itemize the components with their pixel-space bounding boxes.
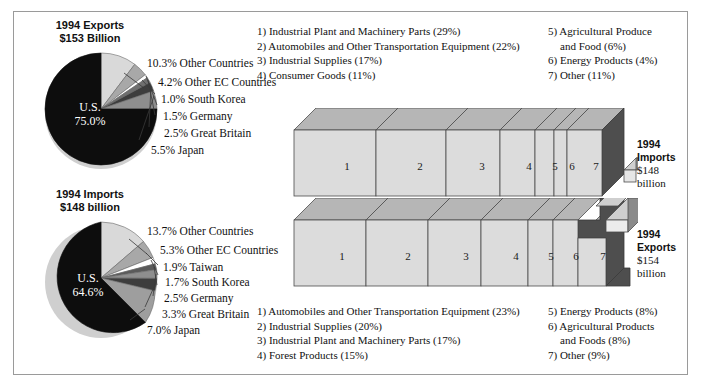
legend-item: 1) Industrial Plant and Machinery Parts …	[257, 24, 520, 39]
callout-imports-germany: 2.5% Germany	[164, 292, 234, 304]
pie-exports-title-line1: 1994 Exports	[25, 19, 155, 32]
legend-item: 2) Industrial Supplies (20%)	[257, 319, 520, 334]
bar-imports-label-line3: $148 billion	[637, 164, 687, 190]
bar-imports-label-line2: Imports	[637, 151, 687, 164]
callout-imports-south-korea: 1.7% South Korea	[165, 276, 250, 288]
callout-imports-other-countries: 13.7% Other Countries	[147, 225, 253, 237]
callout-imports-japan: 7.0% Japan	[147, 324, 200, 336]
legend-item: 6) Energy Products (4%)	[548, 53, 657, 68]
bar-exports-label-line2: Exports	[637, 241, 687, 254]
callout-imports-great-britain: 3.3% Great Britain	[162, 308, 249, 320]
callout-exports-great-britain: 2.5% Great Britain	[164, 127, 251, 139]
pie-imports-title-line1: 1994 Imports	[25, 188, 155, 201]
bar-exports-label-line1: 1994	[637, 228, 687, 241]
legend-item: 3) Industrial Supplies (17%)	[257, 53, 520, 68]
pie-exports-title: 1994 Exports $153 Billion	[25, 19, 155, 45]
callout-imports-other-ec: 5.3% Other EC Countries	[160, 244, 278, 256]
legend-item: 7) Other (11%)	[548, 68, 657, 83]
legend-item: 4) Forest Products (15%)	[257, 348, 520, 363]
pie-imports-title-line2: $148 billion	[25, 201, 155, 214]
legend-item: and Foods (8%)	[548, 333, 657, 348]
legend-item: 5) Energy Products (8%)	[548, 304, 657, 319]
legend-imports-products-right: 5) Agricultural Produce and Food (6%) 6)…	[548, 24, 657, 82]
callout-exports-germany: 1.5% Germany	[163, 110, 233, 122]
legend-imports-products: 1) Industrial Plant and Machinery Parts …	[257, 24, 520, 82]
legend-exports-products: 1) Automobiles and Other Transportation …	[257, 304, 520, 362]
legend-item: 2) Automobiles and Other Transportation …	[257, 39, 520, 54]
bar-imports-label-line1: 1994	[637, 138, 687, 151]
legend-item: 5) Agricultural Produce	[548, 24, 657, 39]
callout-exports-other-countries: 10.3% Other Countries	[147, 57, 253, 69]
callout-exports-south-korea: 1.0% South Korea	[161, 93, 246, 105]
legend-item: 7) Other (9%)	[548, 348, 657, 363]
bar-chart-exports-3d	[278, 198, 638, 298]
legend-item: 1) Automobiles and Other Transportation …	[257, 304, 520, 319]
pie-exports-title-line2: $153 Billion	[25, 32, 155, 45]
legend-item: 3) Industrial Plant and Machinery Parts …	[257, 333, 520, 348]
legend-imports-left-column: 1) Industrial Plant and Machinery Parts …	[257, 24, 520, 82]
legend-item: 6) Agricultural Products	[548, 319, 657, 334]
bar-imports-label: 1994 Imports $148 billion	[637, 138, 687, 190]
callout-exports-japan: 5.5% Japan	[151, 144, 204, 156]
bar-chart-imports-3d	[278, 108, 638, 203]
bar-exports-label-line3: $154 billion	[637, 254, 687, 280]
figure-frame: 1994 Exports $153 Billion	[13, 11, 688, 375]
callout-imports-taiwan: 1.9% Taiwan	[163, 261, 223, 273]
legend-item: 4) Consumer Goods (11%)	[257, 68, 520, 83]
legend-exports-products-right: 5) Energy Products (8%) 6) Agricultural …	[548, 304, 657, 362]
legend-item: and Food (6%)	[548, 39, 657, 54]
pie-imports-title: 1994 Imports $148 billion	[25, 188, 155, 214]
bar-exports-label: 1994 Exports $154 billion	[637, 228, 687, 280]
